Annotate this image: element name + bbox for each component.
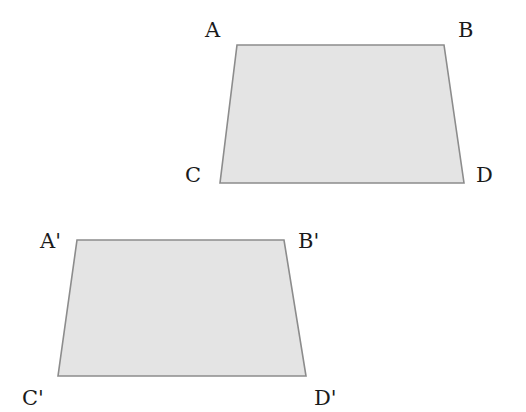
trapezoid-abdc xyxy=(220,45,464,183)
label-b: B xyxy=(458,18,473,42)
label-c: C xyxy=(185,163,201,187)
label-a: A xyxy=(204,18,221,42)
diagram-canvas: A B C D A' B' C' D' xyxy=(0,0,526,412)
trapezoid-abdc-prime xyxy=(58,240,306,376)
label-d: D xyxy=(476,163,493,187)
label-d-prime: D' xyxy=(314,386,337,410)
label-b-prime: B' xyxy=(298,229,319,253)
label-a-prime: A' xyxy=(39,229,61,253)
label-c-prime: C' xyxy=(22,386,44,410)
